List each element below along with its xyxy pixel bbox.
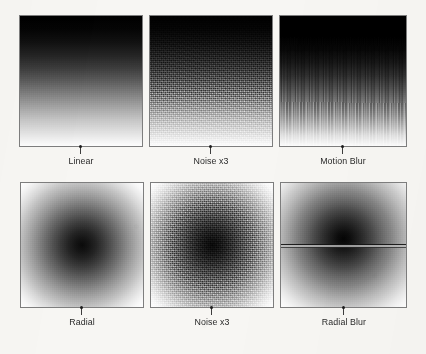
caption-tick [210,147,211,154]
gradient-swatch-linear-noise[interactable] [149,15,273,147]
panel-label-motion-blur: Motion Blur [269,155,418,166]
caption-tick [81,308,82,315]
panel-cell-radial-noise: Noise x3 [150,182,274,308]
panel-cell-motion-blur: Motion Blur [279,15,407,147]
panel-cell-linear-noise: Noise x3 [149,15,273,147]
caption-tick [342,147,343,154]
noise-overlay [151,183,273,307]
panel-cell-radial: Radial [20,182,144,308]
caption-tick-dot [341,145,344,148]
gradient-swatch-linear[interactable] [19,15,143,147]
panel-label-linear-noise: Noise x3 [137,155,286,166]
caption-tick-dot [79,145,82,148]
caption-tick-dot [80,306,83,309]
gradient-sample-grid: Linear Noise x3 Motion Blur Radial [0,0,426,354]
caption-tick-dot [210,306,213,309]
gradient-swatch-radial-blur[interactable] [280,182,407,308]
caption-tick-dot [342,306,345,309]
film-grain-overlay [280,16,406,146]
panel-cell-linear: Linear [19,15,143,147]
film-grain-overlay [20,16,142,146]
gradient-swatch-radial-noise[interactable] [150,182,274,308]
caption-tick-dot [209,145,212,148]
noise-overlay [150,16,272,146]
caption-tick [80,147,81,154]
panel-cell-radial-blur: Radial Blur [280,182,407,308]
film-grain-overlay [21,183,143,307]
gradient-swatch-motion-blur[interactable] [279,15,407,147]
panel-label-radial-blur: Radial Blur [270,316,419,327]
caption-tick [343,308,344,315]
gradient-swatch-radial[interactable] [20,182,144,308]
panel-label-radial: Radial [8,316,157,327]
caption-tick [211,308,212,315]
panel-label-linear: Linear [7,155,156,166]
panel-label-radial-noise: Noise x3 [138,316,287,327]
radial-blur-scanline-artifact [281,244,406,248]
